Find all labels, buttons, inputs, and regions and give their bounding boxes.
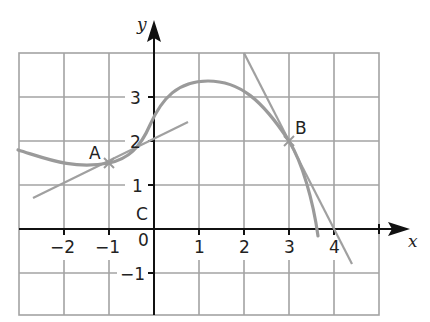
graph-chart: y x 3 2 1 −1 −2 −1 1 2 3 4 0 C A B	[0, 0, 430, 322]
origin-label: 0	[138, 230, 149, 250]
x-axis-label: x	[408, 231, 418, 251]
x-tick-3: 3	[284, 237, 295, 257]
y-tick-3: 3	[130, 88, 141, 108]
x-tick-minus-2: −2	[50, 237, 75, 257]
x-tick-1: 1	[194, 237, 205, 257]
y-tick-minus-1: −1	[120, 264, 145, 284]
point-b-label: B	[295, 118, 307, 138]
x-tick-2: 2	[239, 237, 250, 257]
curve-c	[18, 81, 318, 236]
y-tick-2: 2	[130, 132, 141, 152]
y-tick-1: 1	[132, 176, 143, 196]
x-tick-minus-1: −1	[95, 237, 120, 257]
curve-c-label: C	[136, 204, 148, 224]
grid	[19, 53, 379, 315]
x-tick-4: 4	[329, 237, 340, 257]
y-axis-label: y	[136, 14, 147, 34]
point-a-label: A	[89, 143, 101, 163]
